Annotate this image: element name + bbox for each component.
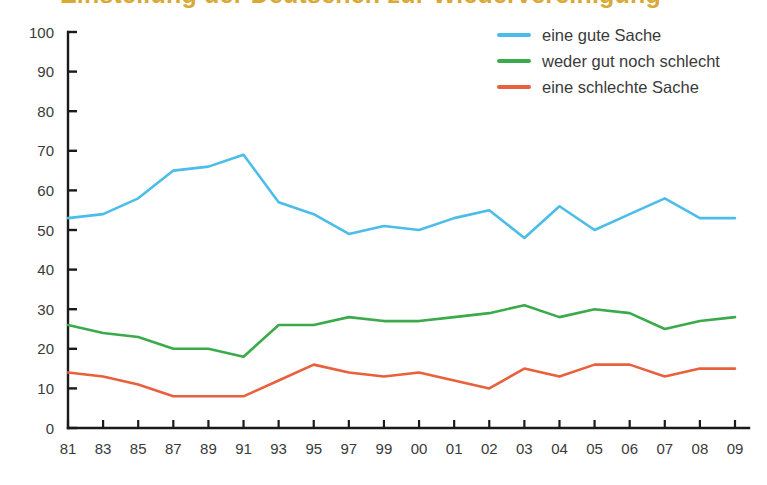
svg-text:09: 09 <box>727 440 744 457</box>
svg-text:30: 30 <box>37 301 54 318</box>
svg-text:00: 00 <box>411 440 428 457</box>
svg-text:70: 70 <box>37 142 54 159</box>
legend-swatch-green <box>497 59 531 63</box>
x-axis-tick-labels: 8183858789919395979900010203040506070809 <box>60 440 744 457</box>
svg-text:50: 50 <box>37 222 54 239</box>
svg-text:100: 100 <box>29 24 54 41</box>
svg-text:08: 08 <box>692 440 709 457</box>
svg-text:01: 01 <box>446 440 463 457</box>
legend-label-schlechte-sache: eine schlechte Sache <box>542 79 699 96</box>
svg-text:89: 89 <box>200 440 217 457</box>
svg-text:83: 83 <box>95 440 112 457</box>
legend-item-schlechte-sache: eine schlechte Sache <box>497 74 762 100</box>
svg-text:07: 07 <box>656 440 673 457</box>
chart-legend: eine gute Sache weder gut noch schlecht … <box>497 22 762 100</box>
svg-text:10: 10 <box>37 380 54 397</box>
legend-label-weder-gut-noch-schlecht: weder gut noch schlecht <box>542 53 720 70</box>
svg-text:05: 05 <box>586 440 603 457</box>
svg-text:04: 04 <box>551 440 568 457</box>
svg-text:02: 02 <box>481 440 498 457</box>
svg-text:81: 81 <box>60 440 77 457</box>
svg-text:0: 0 <box>46 420 54 437</box>
svg-text:20: 20 <box>37 340 54 357</box>
legend-item-gute-sache: eine gute Sache <box>497 22 762 48</box>
svg-text:40: 40 <box>37 261 54 278</box>
svg-text:03: 03 <box>516 440 533 457</box>
svg-text:60: 60 <box>37 182 54 199</box>
legend-label-gute-sache: eine gute Sache <box>542 27 661 44</box>
svg-text:97: 97 <box>340 440 357 457</box>
legend-swatch-orange <box>497 85 531 89</box>
svg-text:95: 95 <box>305 440 322 457</box>
svg-text:91: 91 <box>235 440 252 457</box>
legend-swatch-blue <box>497 33 531 37</box>
svg-text:99: 99 <box>376 440 393 457</box>
y-axis-tick-labels: 0102030405060708090100 <box>29 24 54 437</box>
svg-text:90: 90 <box>37 63 54 80</box>
chart-series-lines <box>68 155 735 397</box>
svg-text:85: 85 <box>130 440 147 457</box>
svg-text:06: 06 <box>621 440 638 457</box>
chart-container: Einstellung der Deutschen zur Wiedervere… <box>0 0 767 485</box>
legend-item-weder-gut-noch-schlecht: weder gut noch schlecht <box>497 48 762 74</box>
svg-text:87: 87 <box>165 440 182 457</box>
svg-text:80: 80 <box>37 103 54 120</box>
svg-text:93: 93 <box>270 440 287 457</box>
